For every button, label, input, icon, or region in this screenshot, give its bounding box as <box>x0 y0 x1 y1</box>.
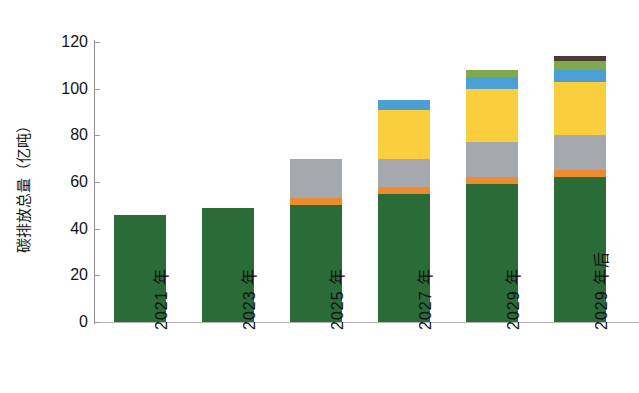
x-axis-tick-label: 2025 年 <box>324 210 348 330</box>
x-axis-line <box>94 322 639 323</box>
y-axis-tick-label: 0 <box>0 313 88 331</box>
bar-segment-yellow <box>466 89 518 143</box>
y-axis-tick-mark <box>94 182 100 183</box>
bar-segment-yellow <box>554 82 606 136</box>
bar-segment-orange <box>378 187 430 194</box>
bar-segment-light-green <box>466 70 518 77</box>
y-axis-tick-label: 20 <box>0 266 88 284</box>
carbon-emission-stacked-bar-chart: 碳排放总量（亿吨） 020406080100120 2021 年2023 年20… <box>0 0 639 393</box>
x-axis-tick-label: 2021 年 <box>148 210 172 330</box>
y-axis-tick-mark <box>94 229 100 230</box>
bar-segment-yellow <box>378 110 430 159</box>
y-axis-tick-mark <box>94 42 100 43</box>
x-axis-tick-label: 2027 年 <box>412 210 436 330</box>
y-axis-tick-mark <box>94 89 100 90</box>
y-axis-tick-label: 80 <box>0 126 88 144</box>
bar-segment-light-green <box>554 61 606 70</box>
bar-segment-orange <box>466 177 518 184</box>
bar-segment-gray <box>290 159 342 199</box>
y-axis-tick-mark <box>94 135 100 136</box>
bar-segment-orange <box>554 170 606 177</box>
bar-segment-gray <box>466 142 518 177</box>
y-axis-tick-label: 40 <box>0 220 88 238</box>
y-axis-tick-mark <box>94 275 100 276</box>
x-axis-tick-label: 2029 年 <box>500 210 524 330</box>
y-axis-tick-label: 60 <box>0 173 88 191</box>
x-axis-tick-label: 2023 年 <box>236 210 260 330</box>
bar-segment-orange <box>290 198 342 205</box>
bar-segment-blue <box>466 77 518 89</box>
y-axis-tick-mark <box>94 322 100 323</box>
y-axis-tick-label: 100 <box>0 80 88 98</box>
bar-segment-gray <box>554 135 606 170</box>
x-axis-tick-label: 2029 年后 <box>588 210 612 330</box>
y-axis-tick-label: 120 <box>0 33 88 51</box>
bar-segment-blue <box>554 70 606 82</box>
bar-segment-gray <box>378 159 430 187</box>
bar-segment-blue <box>378 100 430 109</box>
